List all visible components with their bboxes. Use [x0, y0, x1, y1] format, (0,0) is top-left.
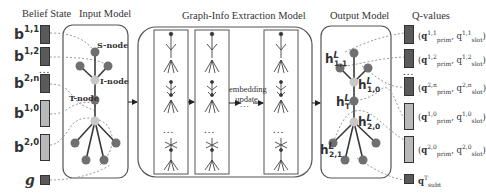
belief-label-b20: b2,0 [14, 139, 39, 155]
s-node-label: S-node [97, 40, 128, 50]
embedding-ellipsis: ... [240, 99, 250, 109]
q-ellipsis: ... [403, 65, 414, 77]
column-1-ellipsis: ... [163, 123, 174, 135]
q-vector-subt [404, 174, 414, 184]
belief-label-b10: b1,0 [14, 105, 39, 121]
column-2-ellipsis: ... [204, 123, 215, 135]
q-vector-2n [404, 77, 414, 96]
belief-label-b11: b1,1 [14, 26, 39, 42]
h10-label: hL1,0 [358, 78, 380, 94]
h21-label: hL2,1 [320, 143, 342, 159]
belief-vector-g [40, 175, 50, 185]
belief-vector-b20 [40, 134, 50, 161]
hT-label: hLT [336, 95, 350, 111]
q-vector-10 [404, 103, 414, 130]
q-label-11: (q1,1prim, q1,1slot) [418, 29, 486, 43]
h11-label: hL1,1 [325, 52, 347, 68]
belief-vector-b2n [40, 74, 50, 93]
q-label-12: (q1,2prim, q1,2slot) [418, 53, 486, 67]
q-vector-11 [404, 25, 414, 44]
belief-vector-b11 [40, 25, 50, 44]
embedding-text: embedding [229, 84, 264, 94]
q-label-10: (q1,0prim, q1,0slot) [418, 110, 486, 124]
belief-vector-b10 [40, 100, 50, 127]
belief-label-g: g [25, 172, 35, 188]
q-label-20: (q2,0prim, q2,0slot) [418, 143, 486, 157]
column-L-ellipsis: ... [273, 123, 284, 135]
i-node-label: I-node [100, 76, 129, 86]
t-node-label: T-node [69, 93, 99, 103]
q-label-subt: qTsubt [418, 174, 441, 188]
belief-label-b2n: b2,n [14, 75, 39, 91]
belief-label-b12: b1,2 [14, 48, 39, 64]
q-label-2n: (q2,nprim, q2,nslot) [418, 81, 486, 95]
q-vector-20 [404, 136, 414, 163]
h20-label: hL2,0 [358, 115, 380, 131]
